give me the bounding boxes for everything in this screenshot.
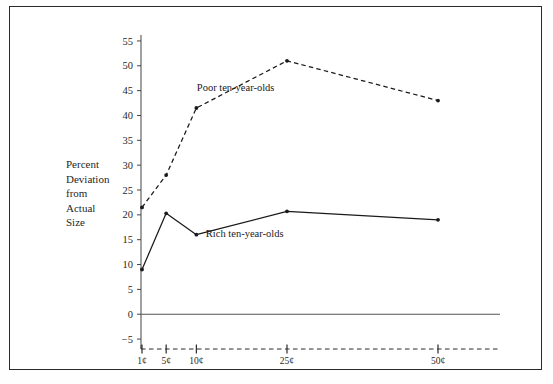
series-line-dashed — [142, 61, 438, 208]
y-axis-tick-label: 15 — [123, 234, 134, 245]
y-axis-tick-label: 25 — [123, 185, 134, 196]
data-point-marker — [140, 268, 144, 272]
y-axis-tick-label: 35 — [123, 135, 134, 146]
data-point-marker — [140, 205, 144, 209]
line-chart: −505101520253035404550551¢5¢10¢25¢50¢Poo… — [0, 0, 553, 384]
y-axis-tick-label: 45 — [123, 85, 134, 96]
y-axis-title-line: from — [66, 187, 88, 199]
data-point-marker — [194, 233, 198, 237]
x-axis-tick-label: 50¢ — [431, 356, 446, 366]
data-point-marker — [436, 99, 440, 103]
data-point-marker — [164, 211, 168, 215]
x-axis-tick-label: 5¢ — [161, 356, 171, 366]
data-point-marker — [436, 218, 440, 222]
data-point-marker — [285, 59, 289, 63]
y-axis-tick-label: 30 — [123, 160, 134, 171]
y-axis-tick-label: 10 — [123, 259, 134, 270]
x-axis-tick-label: 25¢ — [280, 356, 295, 366]
y-axis-tick-label: 50 — [123, 60, 134, 71]
data-point-marker — [164, 173, 168, 177]
series-annotation-label: Poor ten-year-olds — [197, 82, 275, 93]
y-axis-title-line: Percent — [66, 158, 99, 170]
y-axis-tick-label: 55 — [123, 36, 134, 47]
series-line-solid — [142, 211, 438, 269]
x-axis-tick-label: 10¢ — [189, 356, 204, 366]
y-axis-title-line: Actual — [66, 202, 95, 214]
series-annotation-label: Rich ten-year-olds — [206, 228, 284, 239]
y-axis-tick-label: 20 — [123, 209, 134, 220]
y-axis-title-line: Size — [66, 216, 85, 228]
y-axis-tick-label: 5 — [128, 284, 133, 295]
y-axis-tick-label: 40 — [123, 110, 134, 121]
y-axis-title-line: Deviation — [66, 173, 110, 185]
y-axis-tick-label: 0 — [128, 309, 133, 320]
data-point-marker — [285, 209, 289, 213]
y-axis-tick-label: −5 — [122, 334, 133, 345]
figure-container: −505101520253035404550551¢5¢10¢25¢50¢Poo… — [0, 0, 553, 384]
x-axis-tick-label: 1¢ — [137, 356, 147, 366]
data-point-marker — [194, 106, 198, 110]
